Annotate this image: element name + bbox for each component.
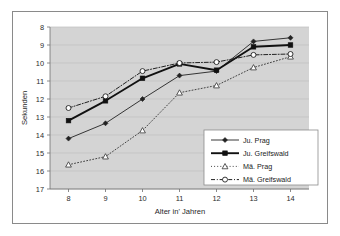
marker-circle — [140, 69, 145, 74]
marker-square — [140, 76, 145, 81]
y-tick-label: 11 — [36, 77, 44, 86]
y-axis-tick-labels: 891011121314151617 — [36, 23, 50, 194]
data-point — [251, 45, 256, 50]
marker-square — [288, 43, 293, 48]
x-tick-label: 12 — [212, 194, 220, 203]
data-point — [66, 106, 71, 111]
marker-square — [214, 68, 219, 73]
legend-label: Ju. Greifswald — [243, 149, 289, 158]
data-point — [177, 61, 182, 66]
data-point — [66, 118, 71, 123]
y-tick-label: 17 — [36, 185, 44, 194]
x-tick-label: 8 — [66, 194, 70, 203]
y-tick-label: 9 — [40, 41, 44, 50]
marker-square — [223, 151, 228, 156]
x-axis-title: Alter in' Jahren — [155, 207, 205, 216]
legend-label: Mä. Greifswald — [243, 175, 291, 184]
y-tick-label: 16 — [36, 167, 44, 176]
y-tick-label: 15 — [36, 149, 44, 158]
legend-label: Ju. Prag — [243, 136, 270, 145]
data-point — [140, 76, 145, 81]
data-point — [103, 94, 108, 99]
marker-circle — [66, 106, 71, 111]
data-point — [140, 69, 145, 74]
marker-circle — [177, 61, 182, 66]
marker-circle — [288, 52, 293, 57]
y-tick-label: 8 — [40, 23, 44, 32]
x-axis-tick-labels: 891011121314 — [66, 189, 294, 203]
data-point — [223, 177, 228, 182]
x-tick-label: 9 — [103, 194, 107, 203]
chart-legend[interactable]: Ju. PragJu. GreifswaldMä. PragMä. Greifs… — [204, 130, 318, 185]
y-tick-label: 12 — [36, 95, 44, 104]
y-tick-label: 14 — [36, 131, 44, 140]
data-point — [288, 43, 293, 48]
data-point — [223, 151, 228, 156]
marker-circle — [103, 94, 108, 99]
data-point — [251, 52, 256, 57]
data-point — [288, 52, 293, 57]
marker-circle — [251, 52, 256, 57]
data-point — [214, 68, 219, 73]
marker-circle — [214, 60, 219, 65]
data-point — [214, 60, 219, 65]
x-tick-label: 10 — [138, 194, 146, 203]
legend-label: Mä. Prag — [243, 162, 272, 171]
y-tick-label: 13 — [36, 113, 44, 122]
chart-plot-svg: 891011121314151617 891011121314 Sekunden… — [0, 0, 340, 236]
marker-square — [251, 45, 256, 50]
y-axis-title: Sekunden — [20, 91, 29, 125]
x-tick-label: 13 — [249, 194, 257, 203]
x-tick-label: 14 — [286, 194, 294, 203]
y-tick-label: 10 — [36, 59, 44, 68]
marker-circle — [223, 177, 228, 182]
x-tick-label: 11 — [176, 194, 184, 203]
chart-figure: 891011121314151617 891011121314 Sekunden… — [0, 0, 340, 236]
marker-square — [66, 118, 71, 123]
